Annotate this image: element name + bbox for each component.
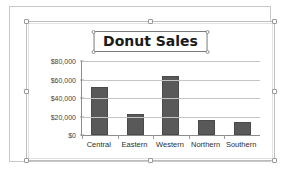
gridline bbox=[82, 98, 260, 99]
bar-northern[interactable] bbox=[198, 120, 215, 135]
plot-area[interactable] bbox=[81, 61, 260, 136]
title-resize-handle-top-right[interactable] bbox=[205, 30, 209, 34]
y-axis: $0$20,000$40,000$60,000$80,000 bbox=[32, 61, 78, 135]
resize-handle-top-center[interactable] bbox=[148, 19, 153, 24]
title-resize-handle-bottom-left[interactable] bbox=[92, 50, 96, 54]
x-axis-tick-label: Northern bbox=[188, 140, 224, 149]
gridline bbox=[82, 61, 260, 62]
x-axis-tick-label: Central bbox=[81, 140, 117, 149]
title-resize-handle-bottom-right[interactable] bbox=[205, 50, 209, 54]
y-axis-tick-label: $20,000 bbox=[51, 113, 76, 120]
x-axis-tick-mark bbox=[82, 135, 83, 139]
gridline bbox=[82, 117, 260, 118]
y-axis-tick-label: $60,000 bbox=[51, 76, 76, 83]
document-page: :::: :::: :::: :::: Donut Sales $0$20,00… bbox=[9, 6, 271, 162]
x-axis-tick-label: Eastern bbox=[117, 140, 153, 149]
y-axis-tick-label: $40,000 bbox=[51, 95, 76, 102]
bar-southern[interactable] bbox=[234, 122, 251, 135]
x-axis-tick-label: Western bbox=[152, 140, 188, 149]
x-axis-tick-mark bbox=[224, 135, 225, 139]
resize-handle-top-right[interactable] bbox=[272, 19, 277, 24]
y-axis-tick-label: $0 bbox=[68, 132, 76, 139]
x-axis: CentralEasternWesternNorthernSouthern bbox=[81, 140, 259, 149]
title-resize-handle-top-left[interactable] bbox=[92, 30, 96, 34]
chart-title: Donut Sales bbox=[103, 33, 198, 49]
x-axis-tick-mark bbox=[118, 135, 119, 139]
chart-plot-wrapper: $0$20,000$40,000$60,000$80,000 CentralEa… bbox=[26, 61, 275, 161]
chart-object[interactable]: :::: :::: :::: :::: Donut Sales $0$20,00… bbox=[26, 21, 275, 161]
y-axis-tick-label: $80,000 bbox=[51, 58, 76, 65]
gridline bbox=[82, 80, 260, 81]
x-axis-tick-mark bbox=[189, 135, 190, 139]
bar-central[interactable] bbox=[91, 87, 108, 135]
resize-handle-top-left[interactable] bbox=[24, 19, 29, 24]
bar-western[interactable] bbox=[162, 76, 179, 135]
x-axis-tick-mark bbox=[153, 135, 154, 139]
x-axis-tick-label: Southern bbox=[223, 140, 259, 149]
chart-title-textbox[interactable]: Donut Sales bbox=[93, 31, 208, 52]
